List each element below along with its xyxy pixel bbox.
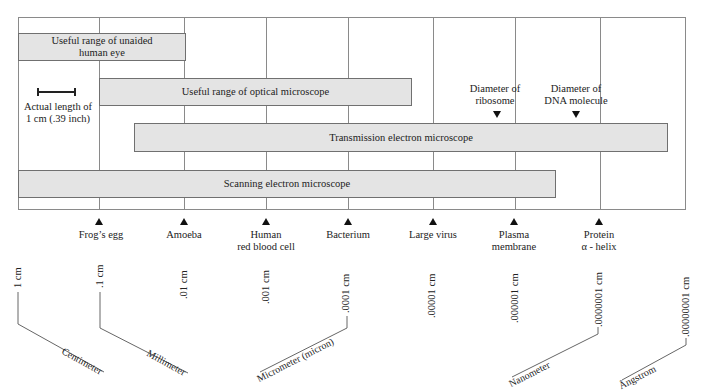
unit-bracket-lines (0, 0, 704, 389)
